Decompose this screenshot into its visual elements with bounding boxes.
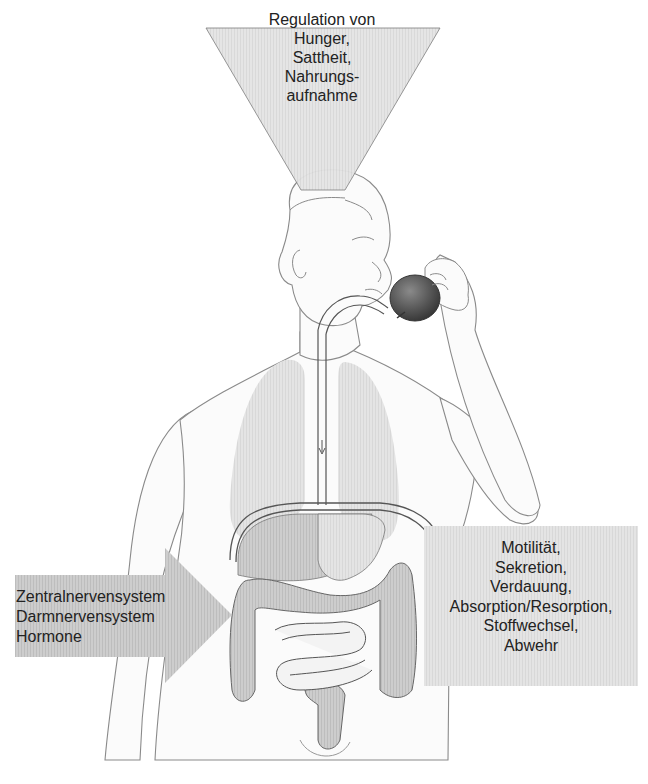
- top-label-text: Regulation von Hunger, Sattheit, Nahrung…: [236, 10, 408, 105]
- top-label-line: Regulation von: [236, 10, 408, 29]
- right-label-line: Abwehr: [424, 636, 638, 656]
- left-label-line: Darmnervensystem: [16, 607, 216, 627]
- right-label-text: Motilität, Sekretion, Verdauung, Absorpt…: [424, 538, 638, 655]
- right-label-line: Sekretion,: [424, 558, 638, 578]
- top-label-line: Sattheit,: [236, 48, 408, 67]
- left-label-line: Hormone: [16, 627, 216, 647]
- left-label-line: Zentralnervensystem: [16, 587, 216, 607]
- digestive-system-diagram: [0, 0, 648, 784]
- left-label-text: Zentralnervensystem Darmnervensystem Hor…: [16, 587, 216, 647]
- right-label-line: Absorption/Resorption,: [424, 597, 638, 617]
- right-label-line: Verdauung,: [424, 577, 638, 597]
- apple-icon: [390, 275, 440, 321]
- right-label-line: Stoffwechsel,: [424, 616, 638, 636]
- top-label-line: Nahrungs-: [236, 67, 408, 86]
- top-label-line: aufnahme: [236, 86, 408, 105]
- top-label-line: Hunger,: [236, 29, 408, 48]
- liver-stomach: [238, 514, 385, 581]
- right-label-line: Motilität,: [424, 538, 638, 558]
